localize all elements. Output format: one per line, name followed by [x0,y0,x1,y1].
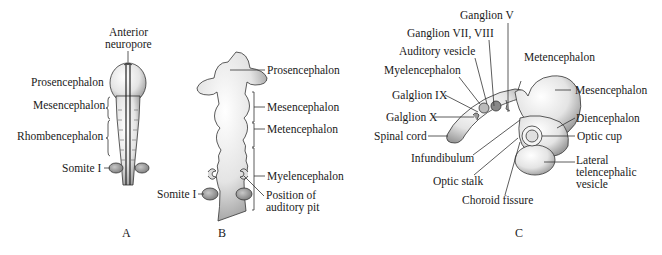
panel-letter-a: A [122,226,131,241]
label-mesencephalon-c: Mesencephalon [575,84,647,97]
label-rhombencephalon-a: Rhombencephalon [17,130,103,143]
label-spinal-cord: Spinal cord [374,130,427,143]
label-prosencephalon-a: Prosencephalon [31,76,104,89]
label-somite-a: Somite I [62,162,101,175]
label-ganglion-v: Ganglion V [460,9,514,22]
label-infundibulum: Infundibulum [411,152,474,165]
label-metencephalon-b: Metencephalon [267,123,338,136]
label-myelencephalon-b: Myelencephalon [267,170,344,183]
label-galglion-ix: Galglion IX [392,89,447,102]
label-metencephalon-c: Metencephalon [524,51,595,64]
label-mesencephalon-b: Mesencephalon [267,101,339,114]
label-auditory-pit-line2: auditory pit [266,201,319,214]
label-optic-stalk: Optic stalk [433,175,483,188]
label-auditory-vesicle: Auditory vesicle [399,45,475,58]
label-prosencephalon-b: Prosencephalon [267,64,340,77]
label-somite-b: Somite I [157,188,196,201]
label-galglion-x: Galglion X [386,111,437,124]
panel-b-embryo [197,52,267,221]
label-choroid-fissure: Choroid fissure [462,194,533,207]
label-diencephalon: Diencephalon [576,112,640,125]
panel-letter-b: B [218,226,226,241]
label-myelencephalon-c: Myelencephalon [384,64,461,77]
label-anterior-neuropore-line2: neuropore [105,38,152,51]
panel-a-embryo [104,51,149,185]
label-mesencephalon-a: Mesencephalon [33,99,105,112]
panel-letter-c: C [515,226,523,241]
label-optic-cup: Optic cup [577,130,622,143]
label-ganglion-vii-viii: Ganglion VII, VIII [407,27,494,40]
label-lateral-telencephalic-vesicle-line3: vesicle [576,178,608,191]
